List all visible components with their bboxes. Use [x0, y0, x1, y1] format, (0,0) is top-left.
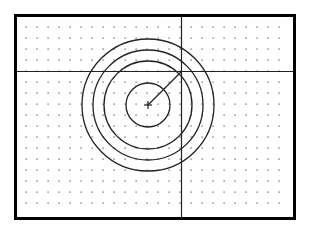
grid-dot — [59, 93, 60, 94]
grid-dot — [37, 181, 38, 182]
grid-dot — [158, 60, 159, 61]
grid-dot — [169, 115, 170, 116]
grid-dot — [103, 115, 104, 116]
grid-dot — [246, 60, 247, 61]
grid-dot — [224, 93, 225, 94]
grid-dot — [114, 115, 115, 116]
grid-dot — [279, 170, 280, 171]
grid-dot — [169, 60, 170, 61]
grid-dot — [81, 170, 82, 171]
grid-dot — [268, 115, 269, 116]
grid-dot — [257, 27, 258, 28]
grid-dot — [136, 60, 137, 61]
grid-dot — [246, 38, 247, 39]
grid-dot — [279, 192, 280, 193]
grid-dot — [224, 181, 225, 182]
grid-dot — [48, 82, 49, 83]
grid-dot — [235, 159, 236, 160]
grid-dot — [169, 148, 170, 149]
grid-dot — [268, 82, 269, 83]
grid-dot — [191, 49, 192, 50]
grid-dot — [202, 203, 203, 204]
grid-dot — [169, 159, 170, 160]
grid-dot — [48, 170, 49, 171]
grid-dot — [59, 148, 60, 149]
grid-dot — [268, 27, 269, 28]
grid-dot — [48, 148, 49, 149]
grid-dot — [103, 170, 104, 171]
grid-dot — [70, 159, 71, 160]
grid-dot — [224, 203, 225, 204]
grid-dot — [169, 192, 170, 193]
grid-dot — [136, 126, 137, 127]
grid-dot — [202, 137, 203, 138]
grid-dot — [191, 38, 192, 39]
grid-dot — [103, 159, 104, 160]
grid-dot — [48, 104, 49, 105]
grid-dot — [257, 148, 258, 149]
grid-dot — [48, 181, 49, 182]
grid-dot — [26, 49, 27, 50]
grid-dot — [180, 126, 181, 127]
grid-dot — [257, 170, 258, 171]
grid-dot — [81, 192, 82, 193]
grid-dot — [81, 203, 82, 204]
grid-dot — [213, 137, 214, 138]
grid-dot — [125, 49, 126, 50]
drawing-canvas[interactable] — [0, 0, 311, 233]
grid-dot — [202, 38, 203, 39]
grid-dot — [26, 38, 27, 39]
canvas-background — [16, 16, 295, 219]
grid-dot — [224, 49, 225, 50]
grid-dot — [81, 137, 82, 138]
grid-dot — [213, 49, 214, 50]
grid-dot — [158, 203, 159, 204]
grid-dot — [26, 170, 27, 171]
grid-dot — [114, 203, 115, 204]
grid-dot — [81, 126, 82, 127]
grid-dot — [81, 159, 82, 160]
grid-dot — [268, 192, 269, 193]
grid-dot — [158, 115, 159, 116]
grid-dot — [191, 159, 192, 160]
grid-dot — [279, 137, 280, 138]
grid-dot — [224, 82, 225, 83]
grid-dot — [224, 170, 225, 171]
grid-dot — [136, 104, 137, 105]
grid-dot — [246, 170, 247, 171]
grid-dot — [180, 148, 181, 149]
grid-dot — [81, 27, 82, 28]
grid-dot — [191, 137, 192, 138]
grid-dot — [279, 60, 280, 61]
grid-dot — [70, 38, 71, 39]
grid-dot — [202, 192, 203, 193]
grid-dot — [180, 115, 181, 116]
grid-dot — [147, 203, 148, 204]
grid-dot — [180, 38, 181, 39]
grid-dot — [268, 159, 269, 160]
grid-dot — [114, 137, 115, 138]
grid-dot — [191, 60, 192, 61]
grid-dot — [279, 93, 280, 94]
grid-dot — [224, 38, 225, 39]
grid-dot — [37, 192, 38, 193]
grid-dot — [180, 27, 181, 28]
grid-dot — [37, 104, 38, 105]
grid-dot — [158, 27, 159, 28]
grid-dot — [48, 137, 49, 138]
grid-dot — [191, 170, 192, 171]
grid-dot — [268, 170, 269, 171]
grid-dot — [136, 137, 137, 138]
grid-dot — [279, 203, 280, 204]
grid-dot — [92, 137, 93, 138]
grid-dot — [70, 49, 71, 50]
grid-dot — [48, 115, 49, 116]
grid-dot — [268, 104, 269, 105]
grid-dot — [169, 170, 170, 171]
grid-dot — [37, 82, 38, 83]
grid-dot — [125, 38, 126, 39]
grid-dot — [103, 38, 104, 39]
grid-dot — [202, 159, 203, 160]
grid-dot — [268, 60, 269, 61]
grid-dot — [224, 60, 225, 61]
